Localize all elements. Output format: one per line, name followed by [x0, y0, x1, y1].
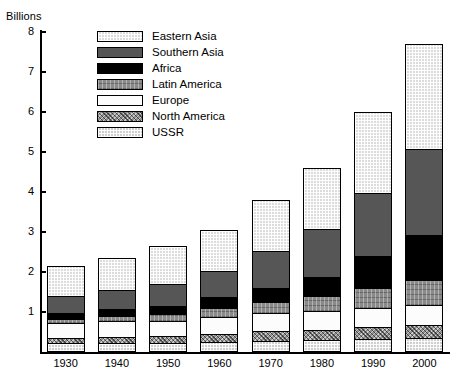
bar-segment-ussr [355, 340, 391, 352]
legend-item-africa: Africa [97, 60, 225, 76]
y-tick-label: 1 [12, 305, 34, 317]
y-axis-title: Billions [6, 10, 42, 22]
bar-segment-southern-asia [150, 285, 186, 307]
legend-label: North America [152, 111, 225, 122]
stacked-bar [149, 246, 187, 352]
x-tick-label: 1950 [145, 357, 191, 369]
x-tick-label: 1940 [94, 357, 140, 369]
bar-segment-southern-asia [406, 150, 442, 235]
y-tick-label: 3 [12, 225, 34, 237]
bar-segment-eastern-asia [99, 259, 135, 291]
legend-item-europe: Europe [97, 92, 225, 108]
legend-swatch-latin-america-icon [97, 79, 143, 90]
legend-label: Africa [152, 63, 181, 74]
x-tick-label: 2000 [401, 357, 447, 369]
x-tick-label: 1990 [350, 357, 396, 369]
x-tick-label: 1970 [248, 357, 294, 369]
bar-segment-europe [150, 322, 186, 338]
stacked-bar [303, 168, 341, 352]
y-tick-label: 2 [12, 265, 34, 277]
bar-segment-europe [201, 318, 237, 335]
bar-segment-eastern-asia [355, 113, 391, 194]
legend-swatch-southern-asia-icon [97, 47, 143, 58]
legend-label: Eastern Asia [152, 31, 217, 42]
bar-segment-ussr [48, 344, 84, 351]
bar-segment-latin-america [355, 289, 391, 309]
y-tick-label: 8 [12, 25, 34, 37]
bar-segment-africa [304, 278, 340, 297]
bar-segment-eastern-asia [48, 267, 84, 297]
bar-segment-eastern-asia [253, 201, 289, 252]
chart-legend: Eastern AsiaSouthern AsiaAfricaLatin Ame… [97, 28, 225, 140]
legend-label: Latin America [152, 79, 222, 90]
bar-segment-latin-america [201, 309, 237, 318]
bar-segment-southern-asia [355, 194, 391, 257]
legend-item-latin-america: Latin America [97, 76, 225, 92]
stacked-bar [200, 230, 238, 352]
stacked-bar [47, 266, 85, 352]
bar-segment-africa [99, 310, 135, 317]
bar-segment-ussr [406, 339, 442, 351]
x-tick-label: 1980 [299, 357, 345, 369]
stacked-bar [98, 258, 136, 352]
bar-segment-africa [355, 257, 391, 288]
legend-item-ussr: USSR [97, 124, 225, 140]
legend-swatch-eastern-asia-icon [97, 31, 143, 42]
population-stacked-bar-chart: Billions 12345678 1930194019501960197019… [0, 0, 462, 378]
bar-segment-eastern-asia [304, 169, 340, 230]
legend-swatch-ussr-icon [97, 127, 143, 138]
legend-swatch-africa-icon [97, 63, 143, 74]
bar-segment-europe [304, 312, 340, 331]
y-tick-label: 4 [12, 185, 34, 197]
bar-segment-europe [355, 309, 391, 329]
bar-segment-southern-asia [99, 291, 135, 310]
bar-segment-north-america [150, 337, 186, 344]
bar-segment-ussr [253, 342, 289, 351]
legend-item-eastern-asia: Eastern Asia [97, 28, 225, 44]
bar-segment-north-america [355, 328, 391, 339]
bar-segment-north-america [406, 326, 442, 338]
bar-segment-europe [406, 306, 442, 326]
y-tick-label: 6 [12, 105, 34, 117]
legend-swatch-europe-icon [97, 95, 143, 106]
bar-segment-southern-asia [48, 297, 84, 314]
bar-segment-africa [150, 307, 186, 316]
bar-segment-eastern-asia [201, 231, 237, 272]
stacked-bar [354, 112, 392, 352]
bar-segment-southern-asia [201, 272, 237, 298]
stacked-bar [405, 44, 443, 352]
legend-item-southern-asia: Southern Asia [97, 44, 225, 60]
bar-segment-latin-america [304, 297, 340, 312]
stacked-bar [252, 200, 290, 352]
bar-segment-ussr [99, 344, 135, 351]
legend-item-north-america: North America [97, 108, 225, 124]
bar-segment-eastern-asia [406, 45, 442, 150]
bar-segment-southern-asia [253, 252, 289, 288]
bar-segment-north-america [304, 331, 340, 341]
bar-segment-europe [99, 322, 135, 337]
bar-segment-europe [48, 324, 84, 338]
x-axis-line [40, 352, 450, 354]
bar-segment-southern-asia [304, 230, 340, 278]
bar-segment-north-america [253, 332, 289, 341]
legend-label: Europe [152, 95, 189, 106]
bar-segment-africa [201, 298, 237, 309]
x-tick-label: 1960 [196, 357, 242, 369]
bar-segment-africa [406, 236, 442, 282]
legend-swatch-north-america-icon [97, 111, 143, 122]
y-tick-label: 7 [12, 65, 34, 77]
bar-segment-latin-america [406, 281, 442, 306]
x-tick-label: 1930 [43, 357, 89, 369]
legend-label: USSR [152, 127, 184, 138]
y-tick-label: 5 [12, 145, 34, 157]
bar-segment-latin-america [253, 303, 289, 314]
bar-segment-north-america [201, 335, 237, 343]
legend-label: Southern Asia [152, 47, 224, 58]
bar-segment-eastern-asia [150, 247, 186, 285]
bar-segment-europe [253, 314, 289, 332]
bar-segment-ussr [201, 343, 237, 351]
bar-segment-ussr [304, 341, 340, 351]
bar-segment-ussr [150, 344, 186, 351]
bar-segment-africa [253, 289, 289, 303]
